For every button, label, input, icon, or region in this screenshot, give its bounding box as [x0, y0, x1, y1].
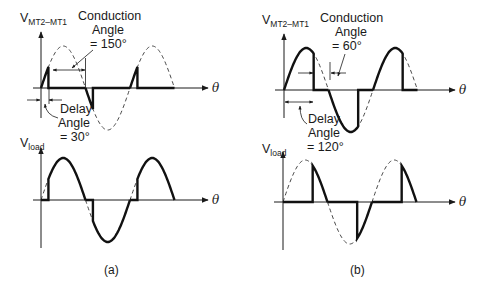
- y-axis-label: VMT2–MT1: [20, 11, 67, 27]
- panel-a: VMT2–MT1 θ Conduction Angle = 150° Delay…: [20, 9, 220, 277]
- conduction-angle-label-line3: = 60°: [332, 39, 362, 53]
- panel-caption: (b): [350, 263, 365, 277]
- delay-pointer: [45, 104, 58, 118]
- delay-angle-label-line2: Angle: [308, 126, 340, 140]
- panel-a-top-plot: VMT2–MT1 θ Conduction Angle = 150° Delay…: [20, 9, 220, 144]
- delay-angle-label-line1: Delay: [60, 102, 93, 116]
- delay-pointer: [300, 106, 307, 124]
- delay-angle-label-line1: Delay: [308, 112, 341, 126]
- conduction-angle-label-line1: Conduction: [320, 11, 383, 25]
- delay-angle-label-line3: = 30°: [60, 130, 90, 144]
- theta-label: θ: [212, 193, 220, 207]
- y-axis-label: Vload: [262, 142, 287, 158]
- panel-caption: (a): [104, 263, 119, 277]
- delay-angle-label-line3: = 120°: [307, 140, 344, 154]
- conduction-angle-label-line2: Angle: [92, 23, 124, 37]
- theta-label: θ: [459, 83, 467, 97]
- y-axis-label: VMT2–MT1: [262, 13, 309, 29]
- panel-a-bottom-plot: Vload θ: [20, 136, 220, 248]
- load-voltage-waveform: [283, 166, 417, 239]
- delay-angle-label-line2: Angle: [58, 116, 90, 130]
- conduction-angle-label-line1: Conduction: [78, 9, 141, 23]
- conduction-angle-label-line2: Angle: [335, 25, 367, 39]
- y-axis-label: Vload: [20, 136, 45, 152]
- panel-b-bottom-plot: Vload θ: [262, 142, 467, 250]
- panel-b-top-plot: VMT2–MT1 θ Conduction Angle = 60° Delay …: [262, 11, 467, 154]
- triac-waveform-diagram: VMT2–MT1 θ Conduction Angle = 150° Delay…: [0, 0, 479, 308]
- theta-label: θ: [212, 81, 220, 95]
- conduction-pointer: [72, 50, 93, 68]
- theta-label: θ: [459, 195, 467, 209]
- panel-b: VMT2–MT1 θ Conduction Angle = 60° Delay …: [262, 11, 467, 277]
- conduction-angle-label-line3: = 150°: [90, 37, 127, 51]
